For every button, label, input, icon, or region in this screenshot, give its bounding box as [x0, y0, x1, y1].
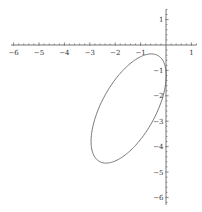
y-tick-label: −3 — [153, 118, 163, 126]
y-tick-label: −6 — [153, 194, 164, 202]
x-tick-label: −5 — [34, 49, 44, 57]
x-tick-label: 1 — [189, 49, 193, 57]
x-tick-label: −6 — [8, 49, 19, 57]
y-tick-label: −1 — [153, 67, 163, 75]
x-tick-label: −2 — [110, 49, 120, 57]
chart-plot: −6−5−4−3−2−111−1−2−3−4−5−6 — [0, 0, 202, 212]
y-tick-label: −5 — [153, 169, 163, 177]
y-tick-label: −4 — [153, 143, 164, 151]
x-tick-label: −4 — [59, 49, 70, 57]
tick-marks — [14, 9, 197, 202]
x-tick-label: −3 — [85, 49, 95, 57]
axes — [11, 9, 196, 205]
y-tick-label: 1 — [159, 16, 163, 24]
